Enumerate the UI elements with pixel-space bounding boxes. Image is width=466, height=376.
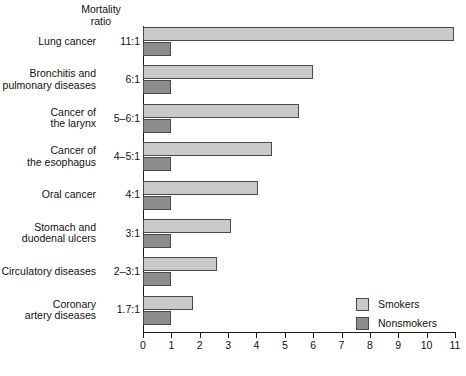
x-axis-tick — [200, 333, 201, 338]
legend-label: Nonsmokers — [378, 317, 437, 330]
bar-smokers — [143, 27, 454, 41]
mortality-ratio-value: 3:1 — [98, 228, 140, 240]
category-label-line: Lung cancer — [0, 36, 96, 48]
x-axis-tick — [398, 333, 399, 338]
mortality-ratio-value: 1.7:1 — [98, 304, 140, 316]
legend-swatch-icon — [356, 298, 369, 311]
bar-smokers — [143, 181, 258, 195]
category-label-line: Oral cancer — [0, 189, 96, 201]
chart-header-label: Mortality ratio — [60, 4, 142, 27]
chart-header-line-2: ratio — [60, 16, 142, 28]
legend-swatch-icon — [356, 317, 369, 330]
category-label: Bronchitis andpulmonary diseases — [0, 68, 96, 91]
bar-nonsmokers — [143, 42, 171, 56]
bar-smokers — [143, 65, 313, 79]
category-label-line: artery diseases — [0, 310, 96, 322]
x-axis-tick — [427, 333, 428, 338]
x-axis-tick-label: 1 — [159, 339, 183, 351]
x-axis-tick — [342, 333, 343, 338]
category-label-line: the larynx — [0, 118, 96, 130]
chart-header-line-1: Mortality — [60, 4, 142, 16]
mortality-ratio-value: 4:1 — [98, 189, 140, 201]
x-axis-tick-label: 10 — [415, 339, 439, 351]
x-axis-tick-label: 5 — [273, 339, 297, 351]
bar-smokers — [143, 219, 231, 233]
mortality-ratio-value: 6:1 — [98, 74, 140, 86]
bar-nonsmokers — [143, 311, 171, 325]
category-label-line: pulmonary diseases — [0, 80, 96, 92]
category-label: Circulatory diseases — [0, 266, 96, 278]
x-axis-tick — [285, 333, 286, 338]
x-axis-tick — [143, 333, 144, 338]
mortality-ratio-value: 4–5:1 — [98, 151, 140, 163]
bar-smokers — [143, 142, 272, 156]
bar-nonsmokers — [143, 80, 171, 94]
x-axis-tick — [313, 333, 314, 338]
bar-nonsmokers — [143, 157, 171, 171]
x-axis-tick-label: 11 — [443, 339, 466, 351]
legend-label: Smokers — [378, 298, 419, 311]
mortality-ratio-value: 2–3:1 — [98, 266, 140, 278]
category-label: Oral cancer — [0, 189, 96, 201]
category-label: Cancer ofthe esophagus — [0, 145, 96, 168]
category-label-line: duodenal ulcers — [0, 233, 96, 245]
category-label-line: Circulatory diseases — [0, 266, 96, 278]
category-label-line: the esophagus — [0, 157, 96, 169]
x-axis-tick-label: 3 — [216, 339, 240, 351]
x-axis-tick-label: 0 — [131, 339, 155, 351]
category-label: Cancer ofthe larynx — [0, 107, 96, 130]
bar-nonsmokers — [143, 119, 171, 133]
bar-smokers — [143, 296, 193, 310]
x-axis-line — [143, 332, 456, 333]
x-axis-tick — [171, 333, 172, 338]
mortality-ratio-value: 5–6:1 — [98, 113, 140, 125]
plot-area: 01234567891011 — [143, 26, 455, 333]
bar-nonsmokers — [143, 234, 171, 248]
mortality-ratio-value: 11:1 — [98, 36, 140, 48]
x-axis-tick — [228, 333, 229, 338]
x-axis-tick — [256, 333, 257, 338]
category-label-line: Cancer of — [0, 145, 96, 157]
category-label: Stomach andduodenal ulcers — [0, 222, 96, 245]
x-axis-tick-label: 8 — [358, 339, 382, 351]
x-axis-tick-label: 2 — [188, 339, 212, 351]
x-axis-tick-label: 7 — [330, 339, 354, 351]
bar-nonsmokers — [143, 196, 171, 210]
x-axis-tick-label: 4 — [244, 339, 268, 351]
bar-smokers — [143, 257, 217, 271]
x-axis-tick-label: 9 — [386, 339, 410, 351]
category-label: Lung cancer — [0, 36, 96, 48]
x-axis-tick-label: 6 — [301, 339, 325, 351]
x-axis-tick — [370, 333, 371, 338]
bar-smokers — [143, 104, 299, 118]
mortality-ratio-bar-chart: Mortality ratio Lung cancerBronchitis an… — [0, 0, 466, 376]
category-label: Coronaryartery diseases — [0, 299, 96, 322]
bar-nonsmokers — [143, 272, 171, 286]
x-axis-tick — [455, 333, 456, 338]
